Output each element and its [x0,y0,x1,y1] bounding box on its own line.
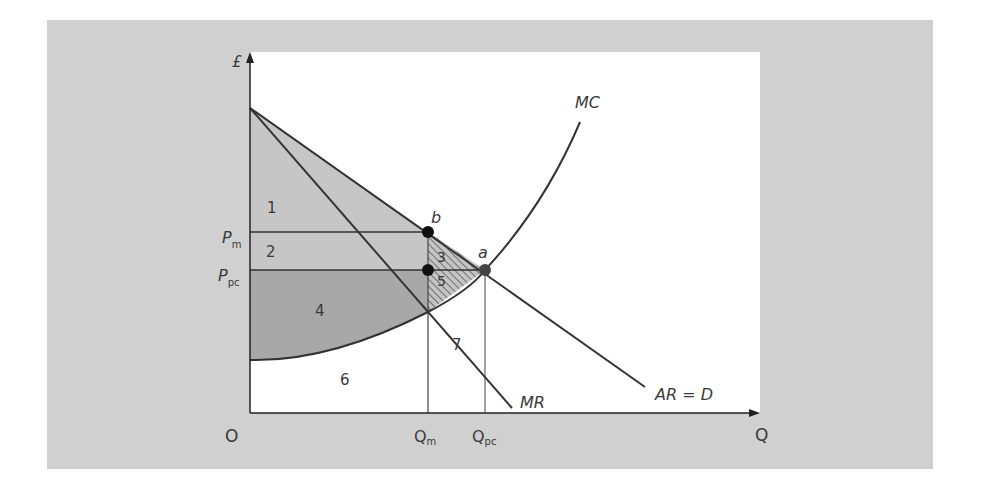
point-b [422,226,434,238]
point-b-label: b [431,208,441,227]
region-2-label: 2 [266,243,276,261]
mc-label: MC [575,93,601,112]
point-a-label: a [478,243,488,262]
region-6-label: 6 [340,371,350,389]
demand-label: AR = D [654,385,713,404]
welfare-loss-chart: £ Q O MC AR = D MR b a Pm Ppc Qm Qpc 1 2… [0,0,982,488]
point-a [479,264,491,276]
region-7-label: 7 [452,336,462,354]
x-axis-label: Q [755,425,768,445]
region-5-label: 5 [437,273,446,289]
qpc-label: Qpc [472,427,496,447]
y-axis-label: £ [232,53,242,71]
mr-label: MR [520,393,545,412]
region-4-label: 4 [315,302,325,320]
point-pm-ppc [422,264,434,276]
region-1-label: 1 [267,199,277,217]
qm-label: Qm [414,427,436,447]
pm-label: Pm [222,228,241,250]
ppc-label: Ppc [218,266,240,288]
origin-label: O [225,426,238,446]
region-3-label: 3 [437,249,446,265]
